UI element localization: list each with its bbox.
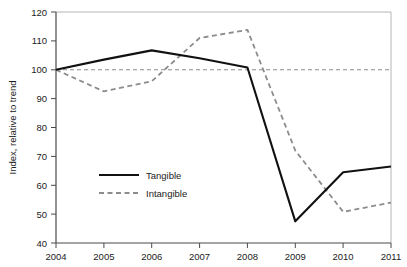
- x-tick-label: 2005: [93, 251, 114, 262]
- legend-label-intangible: Intangible: [146, 188, 187, 199]
- x-tick-label: 2008: [237, 251, 258, 262]
- x-tick-label: 2007: [189, 251, 210, 262]
- y-tick-label: 70: [36, 151, 47, 162]
- x-tick-label: 2006: [141, 251, 162, 262]
- chart-background: [0, 0, 407, 267]
- y-tick-label: 90: [36, 93, 47, 104]
- legend-label-tangible: Tangible: [146, 170, 181, 181]
- x-tick-label: 2004: [45, 251, 66, 262]
- x-tick-label: 2011: [381, 251, 401, 262]
- x-tick-label: 2010: [333, 251, 354, 262]
- y-axis-title: Index, relative to trend: [7, 81, 18, 175]
- x-tick-label: 2009: [285, 251, 306, 262]
- y-tick-label: 110: [32, 35, 47, 46]
- y-tick-label: 100: [31, 64, 47, 75]
- y-tick-label: 80: [36, 122, 47, 133]
- y-tick-label: 60: [36, 180, 47, 191]
- y-tick-label: 50: [36, 209, 47, 220]
- chart-container: 120 110 100 90 80 70 60 50 40 Index, rel…: [0, 0, 407, 267]
- line-chart: 120 110 100 90 80 70 60 50 40 Index, rel…: [0, 0, 407, 267]
- y-tick-label: 40: [36, 238, 47, 249]
- y-tick-label: 120: [31, 7, 47, 18]
